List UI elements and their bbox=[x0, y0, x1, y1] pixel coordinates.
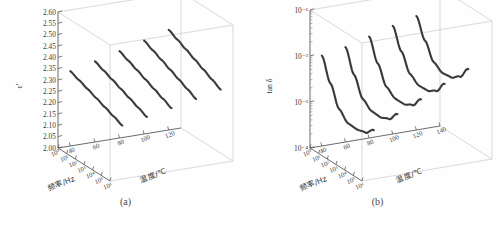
z-tick-label: 10⁻³ bbox=[294, 98, 308, 107]
data-curve-markers bbox=[416, 16, 468, 78]
data-curves-a bbox=[70, 30, 220, 126]
y-axis-title: 温度/℃ bbox=[138, 166, 167, 185]
y-tick-label: 40 bbox=[67, 146, 76, 155]
y-axis-title: 温度/℃ bbox=[394, 166, 423, 185]
y-tick-label: 80 bbox=[366, 138, 375, 147]
data-curve-markers bbox=[95, 61, 147, 117]
axes-box-a bbox=[58, 0, 233, 181]
z-tick-label: 2.30 bbox=[43, 76, 56, 85]
z-tick-label: 2.35 bbox=[43, 64, 56, 73]
z-tick-labels-b: 10⁻¹10⁻²10⁻³10⁻⁴ bbox=[294, 6, 309, 153]
z-axis-title: tan δ bbox=[265, 78, 274, 93]
z-tick-label: 2.20 bbox=[43, 98, 56, 107]
y-tick-label: 60 bbox=[92, 142, 101, 151]
data-curve bbox=[393, 26, 445, 91]
data-curve bbox=[345, 47, 397, 119]
data-curve-markers bbox=[70, 71, 122, 125]
z-tick-label: 10⁻¹ bbox=[294, 6, 308, 15]
x-tick-label: 10⁶ bbox=[102, 181, 113, 191]
y-tick-labels-a: 406080100120 bbox=[67, 129, 176, 155]
data-curve-markers bbox=[345, 47, 397, 119]
tick-marks-a bbox=[58, 11, 169, 181]
z-tick-label: 2.25 bbox=[43, 87, 56, 96]
y-tick-label: 60 bbox=[342, 142, 351, 151]
z-axis-title: ε′ bbox=[15, 83, 24, 88]
plot-a-svg: 2.002.052.102.152.202.252.302.352.402.45… bbox=[0, 0, 251, 200]
data-curve bbox=[369, 37, 421, 106]
z-tick-labels-a: 2.002.052.102.152.202.252.302.352.402.45… bbox=[43, 8, 56, 153]
z-tick-label: 2.45 bbox=[43, 42, 56, 51]
data-curve-markers bbox=[322, 56, 374, 133]
z-tick-label: 2.05 bbox=[43, 132, 56, 141]
data-curve-markers bbox=[393, 26, 445, 91]
caption-a: (a) bbox=[0, 196, 251, 207]
panel-a: 2.002.052.102.152.202.252.302.352.402.45… bbox=[0, 0, 251, 226]
z-tick-label: 2.60 bbox=[43, 8, 56, 17]
z-tick-label: 2.15 bbox=[43, 110, 56, 119]
tick-marks-b bbox=[310, 9, 440, 181]
data-curve-markers bbox=[369, 37, 421, 106]
x-axis-title: 频率/Hz bbox=[46, 173, 76, 193]
data-curve-markers bbox=[120, 51, 172, 108]
axis-lines-b bbox=[310, 10, 440, 181]
z-tick-label: 2.50 bbox=[43, 30, 56, 39]
data-curve bbox=[416, 16, 468, 78]
caption-b: (b) bbox=[252, 196, 503, 207]
z-tick-label: 2.10 bbox=[43, 121, 56, 130]
data-curve-markers bbox=[144, 41, 196, 99]
y-tick-labels-b: 406080100120140 bbox=[319, 125, 448, 155]
x-tick-label: 10⁶ bbox=[354, 181, 365, 191]
z-tick-label: 2.55 bbox=[43, 19, 56, 28]
figure-container: 2.002.052.102.152.202.252.302.352.402.45… bbox=[0, 0, 503, 226]
z-tick-label: 2.40 bbox=[43, 53, 56, 62]
z-tick-label: 10⁻² bbox=[294, 52, 308, 61]
y-tick-label: 40 bbox=[319, 146, 328, 155]
panel-b: 10⁻¹10⁻²10⁻³10⁻⁴ 10⁰10¹10²10³10⁴10⁵10⁶ 4… bbox=[252, 0, 503, 226]
axes-box-b bbox=[310, 0, 492, 181]
y-tick-label: 80 bbox=[116, 138, 125, 147]
plot-b-svg: 10⁻¹10⁻²10⁻³10⁻⁴ 10⁰10¹10²10³10⁴10⁵10⁶ 4… bbox=[252, 0, 503, 200]
data-curves-b bbox=[322, 16, 469, 133]
x-axis-title: 频率/Hz bbox=[298, 173, 328, 193]
data-curve bbox=[322, 56, 374, 133]
